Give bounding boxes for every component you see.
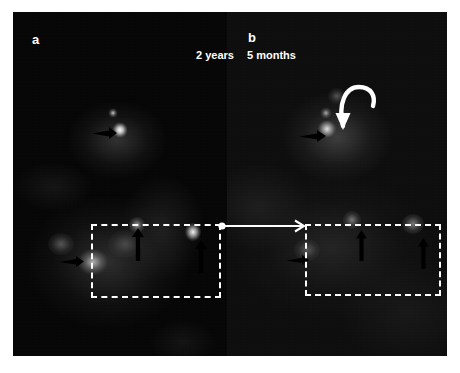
punctum-b5 xyxy=(294,239,320,261)
punctum-a3 xyxy=(185,223,201,241)
arrow-a-roi-left xyxy=(59,255,85,268)
punctum-a6 xyxy=(48,233,74,255)
punctum-a2 xyxy=(109,109,118,118)
timepoint-label-b: 5 months xyxy=(247,50,296,61)
arrow-b-roi-middle xyxy=(355,230,368,262)
arrow-a-upper-right xyxy=(92,126,118,140)
punctum-a7 xyxy=(108,230,142,258)
panel-letter-a: a xyxy=(32,33,39,46)
arrow-b-roi-left xyxy=(286,254,310,266)
punctum-a1 xyxy=(113,123,128,138)
punctum-b1 xyxy=(318,121,336,138)
timepoint-label-a: 2 years xyxy=(196,50,234,61)
panel-a-noise-overlay xyxy=(13,12,227,356)
micrograph-image: a b 2 years 5 months xyxy=(13,12,447,356)
punctum-b2 xyxy=(321,108,332,119)
panel-b-noise-overlay xyxy=(227,12,447,356)
panel-letter-b: b xyxy=(248,31,256,44)
arrow-b-upper-left xyxy=(299,129,327,143)
punctum-b6 xyxy=(328,88,346,104)
punctum-b3 xyxy=(343,211,361,229)
figure-root: a b 2 years 5 months xyxy=(0,0,460,373)
punctum-a4 xyxy=(129,217,145,233)
punctum-a5 xyxy=(78,249,108,275)
arrow-b-roi-right xyxy=(417,238,430,270)
panel-a xyxy=(13,12,227,356)
arrow-a-roi-middle xyxy=(131,228,145,262)
punctum-b4 xyxy=(402,214,424,234)
panel-b xyxy=(227,12,447,356)
arrow-a-roi-right xyxy=(194,240,208,274)
